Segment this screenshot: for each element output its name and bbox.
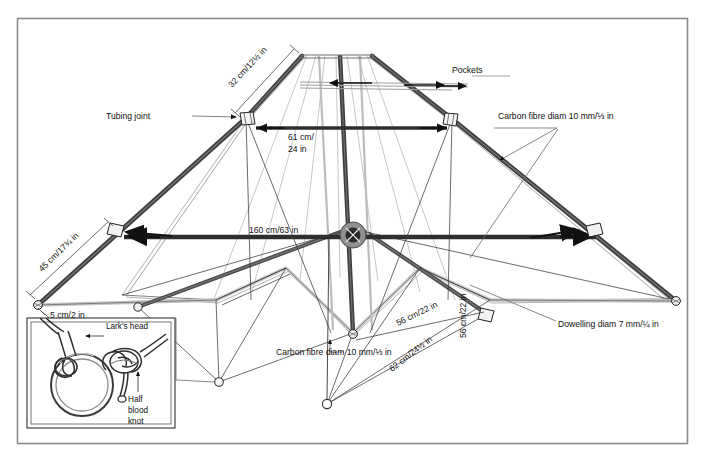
inset-knot-detail: Lark's head Half blood knot: [27, 318, 175, 428]
dim-label-56cm-keel: 56 cm/22 in: [458, 293, 468, 338]
label-half-blood-knot-3: knot: [128, 417, 144, 426]
joint-lower-right: [478, 308, 494, 322]
keel-end-cap: [349, 330, 358, 339]
keel-end-cap-left: [134, 303, 142, 311]
dim-label-61cm-line1: 61 cm/: [288, 132, 314, 142]
label-larks-head: Lark's head: [106, 322, 149, 331]
label-half-blood-knot-1: Half: [128, 395, 143, 404]
tubing-joint-right: [443, 113, 458, 126]
wingtip-cap-right: [672, 297, 681, 306]
kite-frame-diagram: Tubing joint Pockets Carbon fibre diam 1…: [0, 0, 704, 461]
centre-hub: [340, 222, 366, 248]
tow-ring-right: [322, 399, 331, 408]
joint-left-wingtip: [107, 223, 124, 237]
label-carbon-fibre-bottom: Carbon fibre diam 10 mm/⅓ in: [276, 347, 392, 357]
tow-ring-left: [215, 378, 224, 387]
diagram-canvas: Tubing joint Pockets Carbon fibre diam 1…: [0, 0, 704, 461]
label-pockets: Pockets: [452, 65, 483, 75]
label-dowelling: Dowelling diam 7 mm/¼ in: [558, 319, 659, 329]
dim-label-61cm-line2: 24 in: [288, 144, 307, 154]
dim-label-160cm: 160 cm/63 in: [249, 225, 298, 235]
tubing-joint-left: [240, 112, 255, 125]
label-half-blood-knot-2: blood: [128, 406, 148, 415]
label-tubing-joint: Tubing joint: [106, 111, 151, 121]
label-carbon-fibre-right: Carbon fibre diam 10 mm/⅓ in: [498, 111, 614, 121]
joint-right-wingtip: [586, 223, 603, 237]
